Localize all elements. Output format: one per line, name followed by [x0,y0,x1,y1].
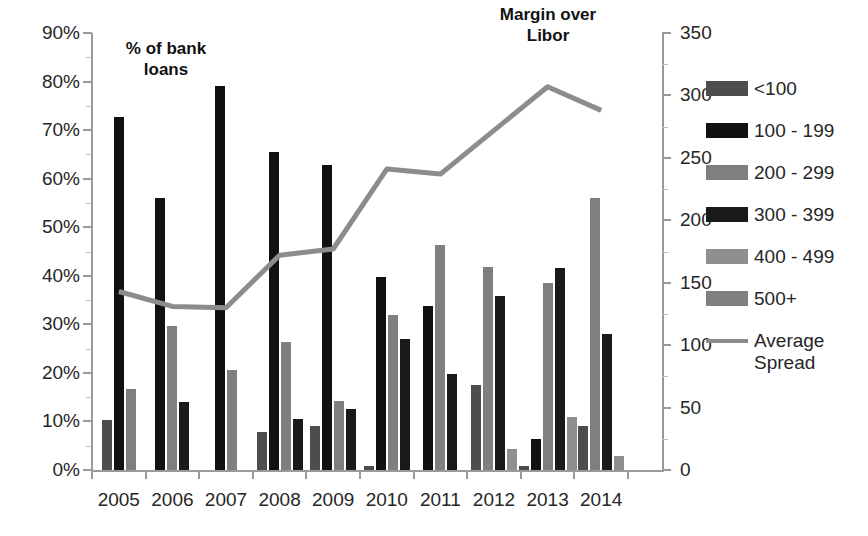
legend-label: 200 - 299 [754,162,834,184]
legend-line-swatch [706,339,748,343]
legend-label: 500+ [754,288,797,310]
legend-item: 400 - 499 [706,246,866,268]
legend-item: Average Spread [706,330,866,352]
legend-color-swatch [706,207,748,222]
legend-item: 100 - 199 [706,120,866,142]
legend-item: 500+ [706,288,866,310]
legend-label: 300 - 399 [754,204,834,226]
chart-legend: <100100 - 199200 - 299300 - 399400 - 499… [706,78,866,372]
legend-color-swatch [706,81,748,96]
legend-item: 300 - 399 [706,204,866,226]
chart-container: % of bank loans Margin over Libor 90%80%… [0,0,868,536]
legend-label: Average Spread [754,330,824,374]
legend-color-swatch [706,249,748,264]
legend-item: <100 [706,78,866,100]
legend-color-swatch [706,291,748,306]
legend-color-swatch [706,165,748,180]
legend-label: 400 - 499 [754,246,834,268]
legend-label: <100 [754,78,797,100]
legend-item: 200 - 299 [706,162,866,184]
legend-color-swatch [706,123,748,138]
legend-label: 100 - 199 [754,120,834,142]
